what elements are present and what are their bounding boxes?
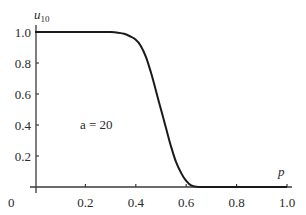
- x-axis-title: p: [277, 164, 285, 179]
- tick-labels: 00.20.40.60.81.00.20.40.60.81.0: [8, 25, 295, 210]
- x-tick-label: 0: [8, 195, 15, 210]
- series-line-u10: [35, 32, 287, 187]
- annotation-a-value: a = 20: [80, 117, 113, 132]
- y-tick-label: 1.0: [15, 25, 31, 40]
- x-tick-label: 1.0: [279, 195, 295, 210]
- y-axis-title: u10: [34, 7, 50, 24]
- y-tick-label: 0.6: [15, 87, 32, 102]
- x-tick-label: 0.4: [128, 195, 145, 210]
- y-tick-label: 0.4: [15, 118, 32, 133]
- y-tick-label: 0.2: [15, 149, 31, 164]
- x-tick-label: 0.8: [228, 195, 244, 210]
- y-tick-label: 0.8: [15, 56, 31, 71]
- x-tick-label: 0.2: [77, 195, 93, 210]
- line-chart: 00.20.40.60.81.00.20.40.60.81.0 u10 p a …: [0, 0, 306, 215]
- x-tick-label: 0.6: [178, 195, 195, 210]
- y-axis-title-subscript: 10: [41, 14, 51, 24]
